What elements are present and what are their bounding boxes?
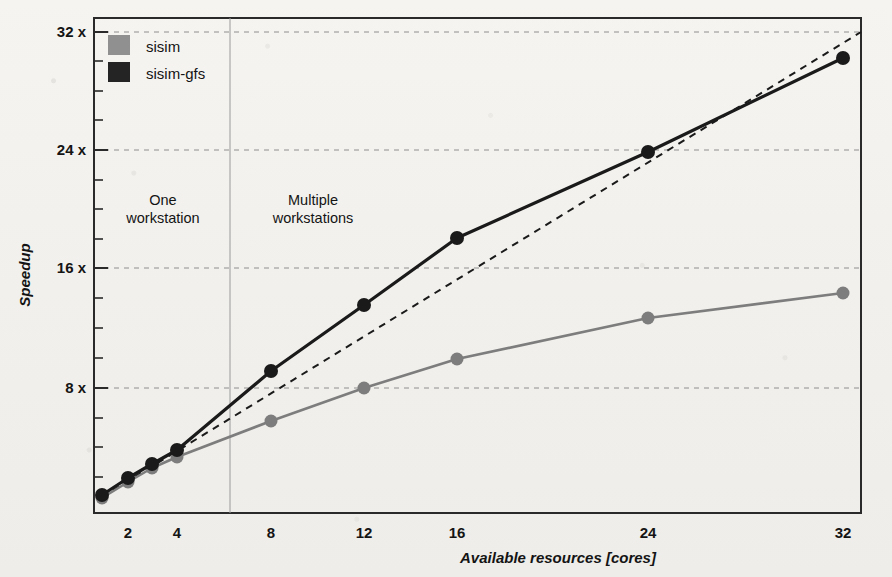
plot-area-frame [94,18,861,513]
x-tick-label-8: 8 [267,524,275,541]
annotation-multiple-workstations-line2: workstations [272,210,354,226]
x-axis-title: Available resources [cores] [459,549,657,566]
x-tick-label-24: 24 [640,524,657,541]
annotation-one-workstation: One workstation [125,192,199,226]
x-tick-label-4: 4 [173,524,182,541]
x-tick-label-2: 2 [124,524,132,541]
x-tick-label-12: 12 [356,524,373,541]
chart-svg: 32 x 24 x 16 x 8 x Speedup 2 4 8 12 16 2… [0,0,892,577]
x-tick-label-32: 32 [835,524,852,541]
legend-label-sisim-gfs: sisim-gfs [146,65,205,82]
series-points-sisim-gfs [95,51,850,502]
y-tick-label-8: 8 x [65,379,87,396]
annotation-one-workstation-line1: One [149,192,176,208]
y-axis-ticks [94,32,108,388]
y-tick-label-32: 32 x [57,23,87,40]
gridlines-horizontal [94,32,861,388]
y-tick-label-24: 24 x [57,141,87,158]
series-line-sisim [102,293,843,498]
legend-label-sisim: sisim [146,38,180,55]
y-axis-title: Speedup [16,243,33,306]
y-tick-label-16: 16 x [57,259,87,276]
annotation-one-workstation-line2: workstation [125,210,199,226]
ideal-speedup-reference-line [102,32,861,497]
series-points-sisim [96,287,850,505]
x-tick-label-16: 16 [449,524,466,541]
legend-swatch-sisim-gfs [108,62,130,82]
annotation-multiple-workstations-line1: Multiple [288,192,338,208]
chart-legend: sisim sisim-gfs [108,35,205,82]
speedup-chart-figure: 32 x 24 x 16 x 8 x Speedup 2 4 8 12 16 2… [0,0,892,577]
legend-swatch-sisim [108,35,130,55]
annotation-multiple-workstations: Multiple workstations [272,192,354,226]
